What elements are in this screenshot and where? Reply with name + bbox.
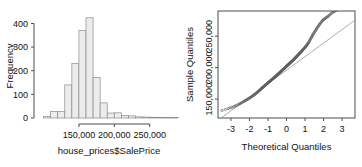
x-axis-tick-label: 0 [284,124,289,134]
qq-point [338,8,340,10]
histogram-bar [107,113,114,118]
x-axis-tick-label: -3 [227,124,235,134]
histogram-bar [51,112,58,118]
histogram-bar [72,63,79,118]
figure-canvas: 0100200300400150,000200,000250,000house_… [0,0,362,167]
x-axis-tick-label: 2 [321,124,326,134]
y-axis-tick-label: 200 [13,66,28,76]
qq-plot-svg: 150,000200,000250,000-3-2-10123Theoretic… [181,0,362,167]
x-axis-title: Theoretical Quantiles [242,141,332,152]
histogram-bar [86,18,93,118]
x-axis-title: house_prices$SalePrice [58,145,160,156]
qq-plot-panel: 150,000200,000250,000-3-2-10123Theoretic… [181,0,362,167]
histogram-bar [44,117,51,118]
y-axis-title: Frequency [4,43,15,88]
x-axis-tick-label: 200,000 [98,130,131,140]
qq-point [224,108,226,110]
histogram-bar [143,117,150,118]
histogram-bar [121,116,128,118]
histogram-bar [93,77,100,118]
histogram-bar [100,103,107,118]
y-axis-tick-label: 150,000 [204,83,214,116]
qq-point [346,0,348,1]
qq-point [335,9,337,11]
y-axis-tick-label: 0 [23,113,28,123]
histogram-bar [65,85,72,118]
histogram-bar [150,117,157,118]
x-axis-tick-label: -1 [264,124,272,134]
histogram-bar [164,118,171,119]
y-axis-title: Sample Quantiles [184,27,195,102]
qq-point [340,0,342,1]
histogram-bar [136,117,143,118]
x-axis-tick-label: -2 [245,124,253,134]
y-axis-tick-label: 400 [13,19,28,29]
x-axis-tick-label: 3 [340,124,345,134]
qq-point [350,0,352,1]
y-axis-tick-label: 300 [13,42,28,52]
histogram-bar [114,113,121,118]
x-axis-tick-label: 1 [303,124,308,134]
qq-point [221,109,223,111]
histogram-bar [58,112,65,118]
histogram-svg: 0100200300400150,000200,000250,000house_… [0,0,181,167]
histogram-panel: 0100200300400150,000200,000250,000house_… [0,0,181,167]
histogram-bar [171,118,178,119]
qq-point [342,0,344,1]
histogram-bar [79,31,86,118]
x-axis-tick-label: 250,000 [133,130,166,140]
histogram-bar [128,116,135,118]
qq-point [344,0,346,1]
y-axis-tick-label: 100 [13,90,28,100]
histogram-bar [157,117,164,118]
y-axis-tick-label: 200,000 [204,51,214,84]
y-axis-tick-label: 250,000 [204,20,214,53]
x-axis-tick-label: 150,000 [63,130,96,140]
